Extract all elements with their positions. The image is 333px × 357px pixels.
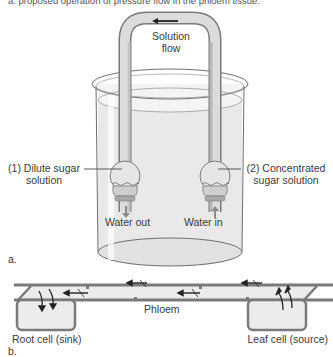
panel-b-letter: b. [8,345,17,357]
concentrated-sugar-line1: (2) Concentrated [240,162,332,174]
concentrated-sugar-label: (2) Concentrated sugar solution [240,162,332,186]
dilute-sugar-label: (1) Dilute sugar solution [2,162,86,186]
solution-flow-label: Solution flow [143,30,199,54]
leaf-cell-label: Leaf cell (source) [236,333,328,345]
water-in-label: Water in [184,216,223,228]
panel-a-letter: a. [8,253,17,265]
concentrated-sugar-line2: sugar solution [240,174,332,186]
water-out-label: Water out [105,216,150,228]
solution-flow-line2: flow [143,42,199,54]
dilute-sugar-line1: (1) Dilute sugar [2,162,86,174]
phloem-label: Phloem [144,303,180,315]
solution-flow-line1: Solution [143,30,199,42]
dilute-sugar-line2: solution [2,174,86,186]
root-cell-label: Root cell (sink) [12,333,81,345]
